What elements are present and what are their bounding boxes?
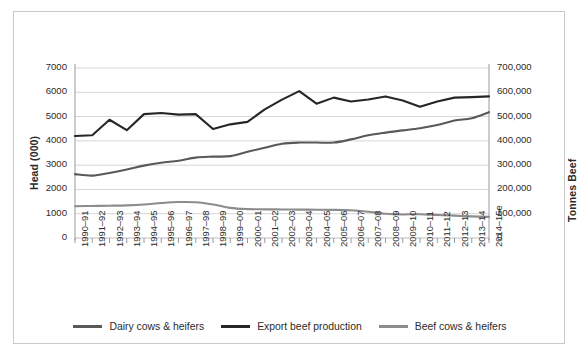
x-axis-tick-label: 1994–95 bbox=[148, 211, 159, 248]
legend-item[interactable]: Export beef production bbox=[221, 321, 362, 332]
x-axis-tick-label: 2009–10 bbox=[407, 211, 418, 248]
legend-swatch bbox=[221, 325, 250, 328]
x-axis-tick-label: 2008–09 bbox=[390, 211, 401, 248]
legend-label: Beef cows & heifers bbox=[415, 321, 507, 332]
x-axis-tick-label: 2007–08 bbox=[372, 211, 383, 248]
y-axis-left-tick-label: 6000 bbox=[29, 85, 67, 96]
x-axis-tick-label: 1997–98 bbox=[200, 211, 211, 248]
x-axis-tick-label: 2001–02 bbox=[269, 211, 280, 248]
x-axis-tick-label: 2002–03 bbox=[286, 211, 297, 248]
y-axis-right-tick-label: 300,000 bbox=[497, 158, 532, 169]
x-axis-tick-label: 1999–00 bbox=[234, 211, 245, 248]
x-axis-tick-label: 2000–01 bbox=[252, 211, 263, 248]
x-axis-tick-label: 2003–04 bbox=[303, 211, 314, 248]
chart-container: Head (000) Tonnes Beef 70006000500040003… bbox=[0, 0, 580, 362]
legend-swatch bbox=[73, 325, 102, 328]
x-axis-tick-label: 2004–05 bbox=[321, 211, 332, 248]
y-axis-left-tick-label: 3000 bbox=[29, 158, 67, 169]
x-axis-tick-label: 2006–07 bbox=[355, 211, 366, 248]
x-axis-tick-label: 2014–15e bbox=[493, 205, 504, 247]
legend-label: Dairy cows & heifers bbox=[109, 321, 204, 332]
y-axis-left-tick-label: 5000 bbox=[29, 110, 67, 121]
y-axis-right-tick-label: 200,000 bbox=[497, 182, 532, 193]
x-axis-tick-label: 1992–93 bbox=[114, 211, 125, 248]
y-axis-left-tick-label: 1000 bbox=[29, 207, 67, 218]
y-axis-right-tick-label: 500,000 bbox=[497, 110, 532, 121]
x-axis-tick-label: 1998–99 bbox=[217, 211, 228, 248]
x-axis-tick-label: 1995–96 bbox=[165, 211, 176, 248]
x-axis-tick-label: 2012–13 bbox=[459, 211, 470, 248]
y-axis-right-title: Tonnes Beef bbox=[566, 159, 578, 222]
y-axis-left-tick-label: 0 bbox=[29, 231, 67, 242]
x-axis-tick-label: 1991–92 bbox=[96, 211, 107, 248]
x-axis-tick-label: 2011–12 bbox=[441, 211, 452, 247]
y-axis-left-tick-label: 7000 bbox=[29, 61, 67, 72]
legend-swatch bbox=[379, 325, 408, 328]
y-axis-right-tick-label: 600,000 bbox=[497, 85, 532, 96]
x-axis-tick-label: 2010–11 bbox=[424, 211, 435, 247]
x-axis-tick-label: 1996–97 bbox=[183, 211, 194, 248]
x-axis-tick-label: 2005–06 bbox=[338, 211, 349, 248]
y-axis-right-tick-label: 700,000 bbox=[497, 61, 532, 72]
chart-legend: Dairy cows & heifersExport beef producti… bbox=[0, 315, 580, 337]
x-axis-tick-label: 1990–91 bbox=[79, 211, 90, 248]
series-line bbox=[75, 91, 489, 136]
legend-item[interactable]: Beef cows & heifers bbox=[379, 321, 507, 332]
y-axis-left-tick-label: 4000 bbox=[29, 134, 67, 145]
x-axis-tick-label: 2013–14 bbox=[476, 211, 487, 248]
x-axis-tick-label: 1993–94 bbox=[131, 211, 142, 248]
legend-label: Export beef production bbox=[257, 321, 362, 332]
legend-item[interactable]: Dairy cows & heifers bbox=[73, 321, 204, 332]
y-axis-left-tick-label: 2000 bbox=[29, 182, 67, 193]
chart-plot-area bbox=[0, 0, 580, 362]
y-axis-right-tick-label: 400,000 bbox=[497, 134, 532, 145]
